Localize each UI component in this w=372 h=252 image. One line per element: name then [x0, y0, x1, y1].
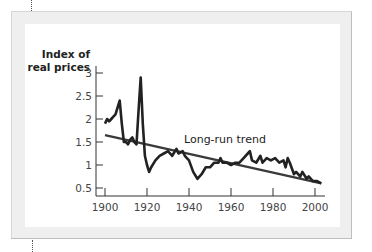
line-chart: [0, 0, 372, 252]
trend-annotation: Long-run trend: [184, 133, 266, 146]
price-index-line: [105, 78, 321, 184]
